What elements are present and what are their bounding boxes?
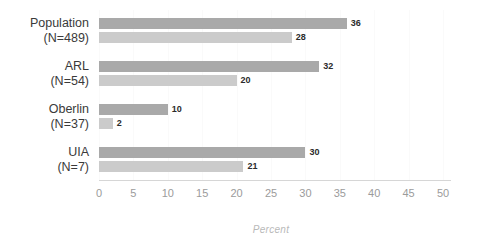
- bar-value-label: 20: [241, 74, 251, 86]
- bar-uia-series-2[interactable]: [99, 161, 243, 172]
- bar-uia-series-1[interactable]: [99, 147, 305, 158]
- category-label-count: (N=489): [0, 31, 89, 46]
- bar-value-label: 36: [351, 17, 361, 29]
- bar-row: 28: [99, 32, 443, 43]
- x-tick-label: 10: [153, 186, 183, 200]
- bar-row: 32: [99, 61, 443, 72]
- bar-oberlin-series-1[interactable]: [99, 104, 168, 115]
- category-label-uia: UIA (N=7): [0, 145, 89, 175]
- x-tick-label: 35: [325, 186, 355, 200]
- bar-value-label: 28: [296, 31, 306, 43]
- x-tick-label: 30: [290, 186, 320, 200]
- bar-row: 30: [99, 147, 443, 158]
- bar-arl-series-2[interactable]: [99, 75, 237, 86]
- bar-group-uia: 30 21: [99, 147, 443, 178]
- category-label-name: ARL: [65, 59, 89, 73]
- x-tick-label: 25: [256, 186, 286, 200]
- category-label-count: (N=7): [0, 160, 89, 175]
- category-label-oberlin: Oberlin (N=37): [0, 102, 89, 132]
- category-label-count: (N=54): [0, 74, 89, 89]
- x-tick-label: 40: [359, 186, 389, 200]
- category-label-name: Population: [30, 16, 89, 30]
- bar-row: 10: [99, 104, 443, 115]
- x-axis-line: [99, 180, 451, 181]
- plot-area: 36 28 32 20 10 2: [99, 10, 443, 180]
- bar-population-series-1[interactable]: [99, 18, 347, 29]
- bar-arl-series-1[interactable]: [99, 61, 319, 72]
- bar-group-oberlin: 10 2: [99, 104, 443, 135]
- category-label-population: Population (N=489): [0, 16, 89, 46]
- x-tick-label: 15: [187, 186, 217, 200]
- bar-population-series-2[interactable]: [99, 32, 292, 43]
- bar-value-label: 30: [309, 146, 319, 158]
- x-tick-label: 0: [84, 186, 114, 200]
- bar-value-label: 10: [172, 103, 182, 115]
- x-tick-label: 5: [118, 186, 148, 200]
- category-label-arl: ARL (N=54): [0, 59, 89, 89]
- bar-row: 2: [99, 118, 443, 129]
- gridline: [443, 10, 444, 180]
- category-label-name: UIA: [68, 145, 89, 159]
- bar-group-population: 36 28: [99, 18, 443, 49]
- bar-row: 36: [99, 18, 443, 29]
- bar-oberlin-series-2[interactable]: [99, 118, 113, 129]
- x-tick-label: 50: [428, 186, 458, 200]
- category-label-count: (N=37): [0, 117, 89, 132]
- bar-group-arl: 32 20: [99, 61, 443, 92]
- bar-row: 21: [99, 161, 443, 172]
- bar-row: 20: [99, 75, 443, 86]
- x-tick-label: 20: [222, 186, 252, 200]
- bar-value-label: 21: [247, 160, 257, 172]
- x-tick-label: 45: [394, 186, 424, 200]
- x-axis-title: Percent: [253, 224, 290, 235]
- category-label-name: Oberlin: [49, 102, 89, 116]
- bar-chart: Population (N=489) ARL (N=54) Oberlin (N…: [0, 0, 491, 244]
- x-axis-title-wrap: Percent: [99, 219, 443, 237]
- bar-value-label: 32: [323, 60, 333, 72]
- bar-value-label: 2: [117, 117, 122, 129]
